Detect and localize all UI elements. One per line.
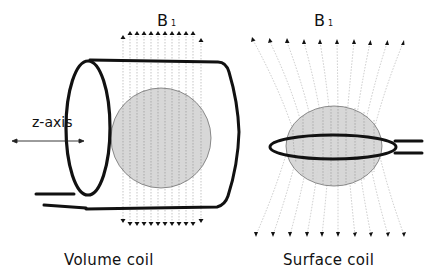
z-axis-arrow: [12, 139, 84, 143]
surface-coil-caption: Surface coil: [283, 251, 374, 269]
surface-b1-letter: B: [314, 11, 325, 30]
volume-coil-caption: Volume coil: [64, 251, 154, 269]
volume-arrowheads-bottom: [121, 219, 204, 226]
volume-b1-subscript: 1: [171, 19, 176, 28]
surface-arrowheads-bottom: [254, 232, 406, 237]
surface-arrowheads-top: [251, 37, 405, 45]
surface-coil-group: [251, 37, 422, 237]
volume-sample: [111, 88, 211, 188]
volume-b1-label: B1: [157, 11, 173, 30]
surface-sample: [286, 106, 382, 186]
volume-arrowheads-top: [121, 31, 204, 42]
volume-b1-letter: B: [157, 11, 168, 30]
surface-b1-label: B1: [314, 11, 330, 30]
coil-diagram: [0, 0, 434, 278]
z-axis-label: z-axis: [32, 114, 72, 130]
surface-b1-subscript: 1: [328, 19, 333, 28]
